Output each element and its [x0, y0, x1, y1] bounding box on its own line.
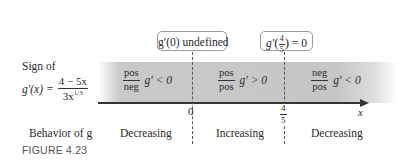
- interval-2-sign: pospos g′ > 0: [218, 68, 267, 92]
- callout-suffix: = 0: [292, 37, 307, 49]
- callout-text: g′(0) undefined: [158, 36, 229, 48]
- derivative-formula: g′(x) = 4 − 5x 3x1/3: [22, 76, 88, 102]
- axis-variable-label: x: [358, 106, 363, 118]
- interval-2-behavior: Increasing: [216, 127, 264, 139]
- callout-g-prime-zero-undefined: g′(0) undefined: [157, 31, 227, 51]
- interval-3-behavior: Decreasing: [311, 127, 363, 139]
- x-axis-line: [98, 102, 362, 104]
- tick-label-four-fifths: 45: [280, 104, 287, 125]
- callout-g-prime-four-fifths-zero: g′(45) = 0: [260, 31, 313, 51]
- tick-label-zero: 0: [188, 105, 194, 117]
- critical-line-four-fifths: [284, 52, 285, 144]
- formula-fraction: 4 − 5x 3x1/3: [58, 76, 88, 102]
- critical-line-zero: [192, 52, 193, 144]
- interval-1-behavior: Decreasing: [120, 127, 172, 139]
- interval-3-sign: negpos g′ < 0: [311, 68, 361, 92]
- row-label-sign-of: Sign of: [22, 60, 56, 72]
- formula-lhs: g′(x) =: [22, 83, 54, 95]
- figure-caption: FIGURE 4.23: [22, 144, 87, 156]
- row-label-behavior: Behavior of g: [29, 127, 92, 139]
- interval-1-sign: posneg g′ < 0: [123, 68, 172, 92]
